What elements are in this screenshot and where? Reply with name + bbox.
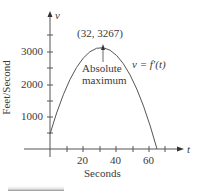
x-axis-title: Seconds	[84, 168, 121, 179]
figure-caption-cutoff	[8, 186, 64, 191]
curve-label: v = f′(t)	[132, 59, 166, 70]
y-axis-title: Feet/Second	[1, 60, 12, 114]
annotation-maximum: maximum	[82, 75, 127, 86]
y-tick-label-3000: 3000	[21, 46, 43, 57]
x-axis-arrow-icon	[177, 147, 184, 152]
peak-point-label: (32, 3267)	[77, 28, 123, 39]
x-tick-label-40: 40	[110, 155, 121, 166]
annotation-absolute: Absolute	[82, 63, 122, 74]
y-axis-arrow-icon	[48, 11, 53, 17]
x-tick-label-60: 60	[143, 155, 154, 166]
x-tick-label-20: 20	[77, 155, 88, 166]
x-axis-symbol: t	[187, 144, 190, 155]
y-tick-label-2000: 2000	[21, 79, 43, 90]
annotation-arrow-icon	[101, 44, 105, 50]
y-tick-label-1000: 1000	[21, 111, 43, 122]
y-axis-symbol: v	[55, 10, 60, 21]
